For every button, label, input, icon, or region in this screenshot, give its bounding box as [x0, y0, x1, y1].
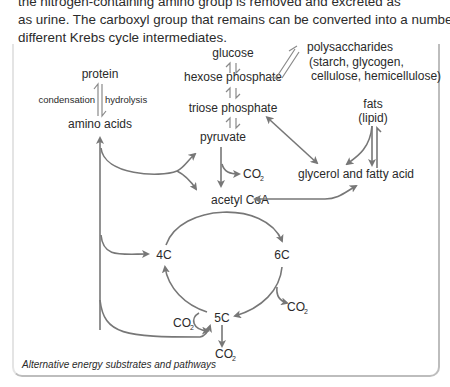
- node-acetyl-coa: acetyl CoA: [211, 193, 269, 207]
- label-hydrolysis: hydrolysis: [105, 94, 147, 105]
- arrow-amino-pyruvate: [101, 148, 195, 174]
- svg-text:CO: CO: [173, 316, 191, 330]
- node-pyruvate: pyruvate: [200, 130, 246, 144]
- svg-text:CO: CO: [287, 300, 305, 314]
- node-fats: fats: [363, 97, 382, 111]
- node-polysaccharides-detail-2: cellulose, hemicellulose): [311, 69, 441, 83]
- svg-text:CO: CO: [215, 347, 233, 361]
- diagram-caption: Alternative energy substrates and pathwa…: [21, 359, 216, 370]
- svg-text:2: 2: [232, 355, 236, 362]
- label-condensation: condensation: [38, 94, 95, 105]
- arrow-6c-5c: [235, 267, 282, 316]
- arrow-6c-co2: [277, 287, 287, 303]
- arrow-acetyl-glycerol: [259, 186, 356, 199]
- arrow-triose-glycerol: [270, 120, 317, 163]
- node-4c: 4C: [156, 248, 172, 262]
- node-hexose-phosphate: hexose phosphate: [184, 70, 282, 84]
- reversible-arrow-icon: [226, 118, 240, 128]
- svg-text:2: 2: [190, 324, 194, 331]
- metabolic-pathway-diagram: glucose hexose phosphate triose phosphat…: [0, 0, 450, 387]
- svg-text:2: 2: [260, 175, 264, 182]
- co2-label-5c-out: CO 2: [215, 347, 236, 362]
- arrow-pyruvate-co2: [222, 164, 239, 174]
- co2-label-5c-in: CO 2: [173, 316, 194, 331]
- node-polysaccharides: polysaccharides: [307, 40, 393, 54]
- co2-label-pyruvate: CO 2: [243, 167, 264, 182]
- node-polysaccharides-detail-1: (starch, glycogen,: [309, 55, 404, 69]
- node-amino-acids: amino acids: [68, 117, 132, 131]
- svg-text:CO: CO: [243, 167, 261, 181]
- svg-text:2: 2: [304, 308, 308, 315]
- arrow-glycerol-up: [377, 128, 381, 168]
- node-6c: 6C: [274, 248, 290, 262]
- node-lipid: (lipid): [358, 111, 387, 125]
- arrow-amino-4c: [101, 235, 148, 254]
- node-protein: protein: [82, 67, 119, 81]
- node-glucose: glucose: [212, 46, 254, 60]
- arrow-4c-6c: [166, 212, 282, 245]
- node-triose-phosphate: triose phosphate: [189, 101, 278, 115]
- arrow-5c-4c: [165, 267, 207, 312]
- reversible-arrow-icon: [226, 88, 240, 98]
- node-5c: 5C: [214, 311, 230, 325]
- arrow-co2-into-5c: [194, 313, 208, 331]
- node-glycerol-fatty-acid: glycerol and fatty acid: [298, 167, 414, 181]
- arrow-amino-acetyl: [177, 171, 196, 189]
- co2-label-6c: CO 2: [287, 300, 308, 315]
- arrow-fats-glycerol: [347, 126, 372, 164]
